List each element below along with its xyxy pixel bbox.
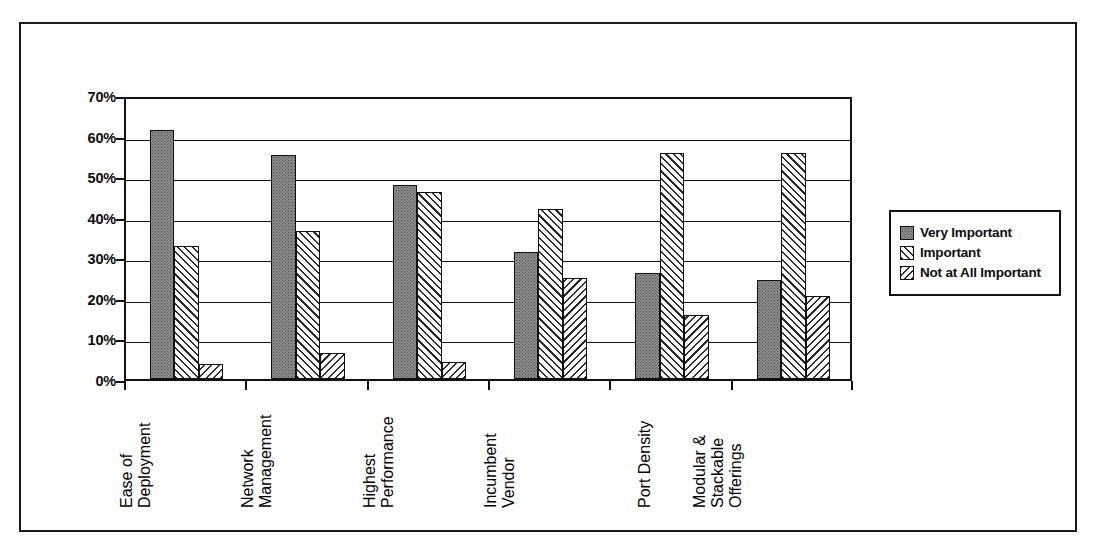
y-axis-tick-label: 40%: [60, 212, 116, 227]
x-axis-category-label-line: Port Density: [636, 390, 654, 508]
x-axis-category-label-line: Modular &: [691, 390, 709, 508]
x-axis-tick-mark: [124, 381, 126, 390]
legend-swatch-icon: [900, 246, 914, 260]
bar: [417, 192, 442, 379]
x-axis-category-label-line: Vendor: [500, 390, 518, 508]
x-axis-category-label-line: Highest: [360, 390, 378, 508]
bar: [806, 296, 831, 379]
x-axis-category-label-line: Network: [239, 390, 257, 508]
bar-group: [490, 99, 611, 379]
y-axis-tick-mark: [116, 259, 124, 261]
bar: [320, 353, 345, 379]
y-axis-tick-label: 30%: [60, 252, 116, 267]
bar-group: [247, 99, 368, 379]
bar: [199, 364, 224, 379]
legend-item-label: Not at All Important: [920, 265, 1041, 280]
y-axis-tick-label: 70%: [60, 90, 116, 105]
y-axis-tick-mark: [116, 340, 124, 342]
y-axis-tick-label: 50%: [60, 171, 116, 186]
bar: [174, 246, 199, 379]
bar: [296, 231, 321, 379]
y-axis-tick-mark: [116, 219, 124, 221]
legend-swatch-icon: [900, 266, 914, 280]
x-axis-category-label: IncumbentVendor: [488, 390, 609, 508]
legend-item: Important: [900, 245, 1049, 260]
bar: [757, 280, 782, 379]
x-axis-category-label: HighestPerformance: [367, 390, 488, 508]
x-axis-tick-mark: [367, 381, 369, 390]
legend-item-label: Very Important: [920, 225, 1012, 240]
y-axis-tick-mark: [116, 300, 124, 302]
legend-item: Very Important: [900, 225, 1049, 240]
y-axis-tick-label: 10%: [60, 333, 116, 348]
x-axis-category-label: NetworkManagement: [245, 390, 366, 508]
bar: [442, 362, 467, 379]
x-axis-category-label-line: Deployment: [136, 390, 154, 508]
bar: [635, 273, 660, 379]
x-axis-category-label-line: Incumbent: [482, 390, 500, 508]
x-axis-category-label-line: Management: [257, 390, 275, 508]
x-axis-category-label: Ease ofDeployment: [124, 390, 245, 508]
x-axis-category-label: Modular &StackableOfferings: [731, 390, 852, 508]
bar-group: [126, 99, 247, 379]
bar: [781, 153, 806, 379]
x-axis-category-label-line: Performance: [378, 390, 396, 508]
bar-group: [369, 99, 490, 379]
x-axis-tick-mark: [851, 381, 853, 390]
legend-item-label: Important: [920, 245, 980, 260]
y-axis-tick-mark: [116, 178, 124, 180]
y-axis-tick-label: 20%: [60, 293, 116, 308]
y-axis-tick-mark: [116, 97, 124, 99]
bar: [150, 130, 175, 380]
bar: [684, 315, 709, 379]
x-axis-tick-mark: [609, 381, 611, 390]
bar-group: [611, 99, 732, 379]
y-axis-tick-mark: [116, 138, 124, 140]
chart-figure-frame: 0%10%20%30%40%50%60%70% Ease ofDeploymen…: [19, 22, 1077, 532]
bar: [660, 153, 685, 379]
x-axis-category-label-line: Ease of: [118, 390, 136, 508]
x-axis-tick-mark: [488, 381, 490, 390]
x-axis-category-label-line: Stackable: [709, 390, 727, 508]
x-axis-tick-mark: [731, 381, 733, 390]
bar: [563, 278, 588, 379]
legend-swatch-icon: [900, 226, 914, 240]
y-axis-tick-label: 0%: [60, 374, 116, 389]
bar: [514, 252, 539, 379]
x-axis-category-label-line: Offerings: [727, 390, 745, 508]
bar-group: [733, 99, 854, 379]
y-axis: 0%10%20%30%40%50%60%70%: [54, 97, 116, 381]
bar: [271, 155, 296, 379]
plot-area: [124, 97, 852, 381]
bar: [538, 209, 563, 379]
x-axis-tick-mark: [245, 381, 247, 390]
chart-legend: Very ImportantImportantNot at All Import…: [889, 210, 1061, 296]
legend-item: Not at All Important: [900, 265, 1049, 280]
x-axis-category-labels: Ease ofDeploymentNetworkManagementHighes…: [124, 390, 852, 510]
y-axis-tick-label: 60%: [60, 131, 116, 146]
y-axis-tick-mark: [116, 381, 124, 383]
bar: [393, 185, 418, 379]
